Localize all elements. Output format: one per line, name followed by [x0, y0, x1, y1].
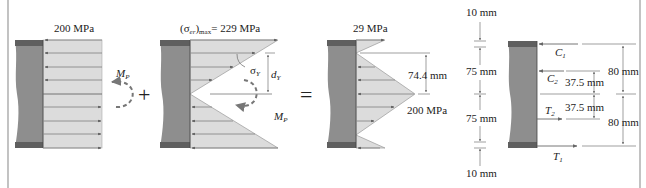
panel-resultant-forces: 10 mm 75 mm 75 mm 10 mm C1 C2 T2 T1 37.5… [466, 6, 639, 179]
panel-plastic-stress: 200 MPa MP [15, 22, 133, 148]
dim-web-bottom: 75 mm [466, 112, 497, 124]
residual-triangle-top [356, 40, 385, 53]
plus-operator: + [138, 82, 150, 107]
force-c2: C2 [547, 72, 558, 86]
residual-dim-label: 74.4 mm [408, 69, 448, 81]
force-c1: C1 [555, 46, 566, 60]
beam-top-flange [15, 40, 43, 46]
force-t2: T2 [545, 104, 555, 118]
yield-stress-label: σY [250, 64, 261, 78]
dim-outer-bottom: 80 mm [608, 116, 639, 128]
residual-mid-label: 200 MPa [407, 104, 447, 116]
beam-section [327, 40, 356, 148]
equals-operator: = [300, 82, 312, 107]
dim-inner-bottom: 37.5 mm [565, 101, 605, 113]
beam-section [508, 41, 537, 148]
panel-elastic-recovery: (σer)max= 229 MPa σY dY MP [160, 22, 288, 148]
dim-flange-top: 10 mm [466, 6, 497, 18]
recovery-stress-label: (σer)max= 229 MPa [180, 22, 260, 36]
dim-outer-top: 80 mm [608, 65, 639, 77]
beam-bottom-flange [15, 142, 43, 148]
moment-arrow-icon [236, 80, 257, 106]
moment-label: MP [115, 67, 130, 81]
panel-residual-stress: 29 MPa 74.4 mm 200 MPa [327, 22, 448, 148]
dim-inner-top: 37.5 mm [565, 76, 605, 88]
dim-web-top: 75 mm [466, 65, 497, 77]
residual-triangle-bottom [356, 135, 385, 148]
stress-diagram: 200 MPa MP + (σer)max= 229 MPa [0, 0, 646, 188]
moment-arrow-icon [112, 82, 133, 107]
plastic-stress-label: 200 MPa [54, 22, 94, 34]
residual-top-label: 29 MPa [353, 22, 388, 34]
moment-label: MP [273, 110, 288, 124]
beam-section [15, 40, 43, 148]
dim-flange-bottom: 10 mm [466, 167, 497, 179]
force-t1: T1 [553, 150, 563, 164]
yield-depth-label: dY [271, 68, 282, 82]
beam-section [160, 40, 190, 148]
